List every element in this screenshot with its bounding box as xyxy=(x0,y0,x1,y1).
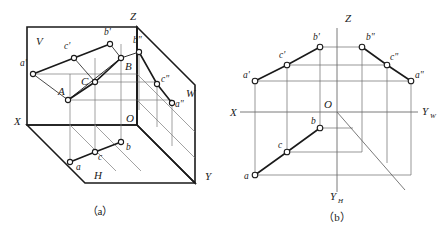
marker-a-dbl-a xyxy=(169,100,174,105)
marker-c-dbl-a xyxy=(154,81,159,86)
label-origin-a: O xyxy=(126,112,134,124)
point-markers-b xyxy=(252,44,414,178)
label-a-dbl-b: a" xyxy=(415,70,425,80)
label-a-prime-b: a' xyxy=(243,70,251,80)
marker-b-b xyxy=(317,125,323,131)
caption-a: （a） xyxy=(87,205,114,217)
label-axis-yh-b: Y H xyxy=(330,190,344,205)
marker-c-b xyxy=(284,149,290,155)
label-axis-z-b: Z xyxy=(345,12,352,24)
label-origin-b: O xyxy=(324,98,332,110)
marker-b-prime-a xyxy=(107,41,112,46)
label-a-dbl-a: a" xyxy=(175,99,185,109)
marker-B-a xyxy=(118,55,123,60)
label-plane-h: H xyxy=(93,169,103,181)
label-b-prime-b: b' xyxy=(313,32,321,42)
label-c-dbl-a: c" xyxy=(161,74,170,84)
w-plane-outline xyxy=(137,27,195,183)
marker-a-b xyxy=(252,172,258,178)
marker-a-dbl-b xyxy=(408,78,414,84)
marker-a-a xyxy=(67,159,72,164)
marker-b-dbl-a xyxy=(136,49,141,54)
marker-C-a xyxy=(92,79,97,84)
label-axis-x-a: X xyxy=(13,115,22,127)
label-b-a: b xyxy=(126,142,131,152)
h-plane-outline xyxy=(27,125,195,183)
label-axis-yw-sub: W xyxy=(430,112,437,120)
bisector-45-b xyxy=(337,112,405,190)
marker-b-a xyxy=(118,139,123,144)
label-plane-w: W xyxy=(186,87,196,99)
label-c-prime-b: c' xyxy=(279,50,286,60)
marker-a-prime-a xyxy=(30,71,35,76)
label-a-prime-a: a' xyxy=(20,58,28,68)
diagram-a-group: a' c' b' A C B b" c" a" a c b V H W Z X … xyxy=(13,10,213,217)
marker-c-a xyxy=(92,149,97,154)
front-closing-line-a xyxy=(33,44,121,100)
label-plane-v: V xyxy=(36,35,44,47)
label-axis-yw-b: Y W xyxy=(422,105,437,120)
label-a-a: a xyxy=(76,162,81,172)
marker-c-prime-b xyxy=(284,62,290,68)
label-axis-y-a: Y xyxy=(205,170,213,182)
label-B-a: B xyxy=(125,60,132,72)
point-markers-a xyxy=(30,41,174,164)
diagram-b-group: a' c' b' b" c" a" b c a Z X O Y W Y H （b… xyxy=(229,12,437,223)
label-b-prime-a: b' xyxy=(104,27,112,37)
label-axis-yh-sub: H xyxy=(337,197,344,205)
label-c-dbl-b: c" xyxy=(390,52,399,62)
figure-canvas: a' c' b' A C B b" c" a" a c b V H W Z X … xyxy=(0,0,448,235)
label-axis-z-a: Z xyxy=(130,10,137,22)
label-A-a: A xyxy=(57,85,65,97)
marker-a-prime-b xyxy=(252,78,258,84)
marker-c-dbl-b xyxy=(384,62,390,68)
label-c-b: c xyxy=(278,140,283,150)
label-b-b: b xyxy=(311,116,316,126)
caption-b: （b） xyxy=(323,211,351,223)
marker-c-prime-a xyxy=(71,55,76,60)
label-b-dbl-a: b" xyxy=(133,35,143,45)
label-b-dbl-b: b" xyxy=(366,32,376,42)
label-a-b: a xyxy=(244,171,249,181)
label-C-a: C xyxy=(81,75,89,87)
label-axis-x-b: X xyxy=(229,106,238,118)
projection-figure: a' c' b' A C B b" c" a" a c b V H W Z X … xyxy=(0,0,448,235)
label-axis-yw-letter: Y xyxy=(422,105,430,117)
label-c-prime-a: c' xyxy=(64,41,71,51)
marker-b-prime-b xyxy=(317,44,323,50)
marker-b-dbl-b xyxy=(359,44,365,50)
marker-A-a xyxy=(65,97,70,102)
